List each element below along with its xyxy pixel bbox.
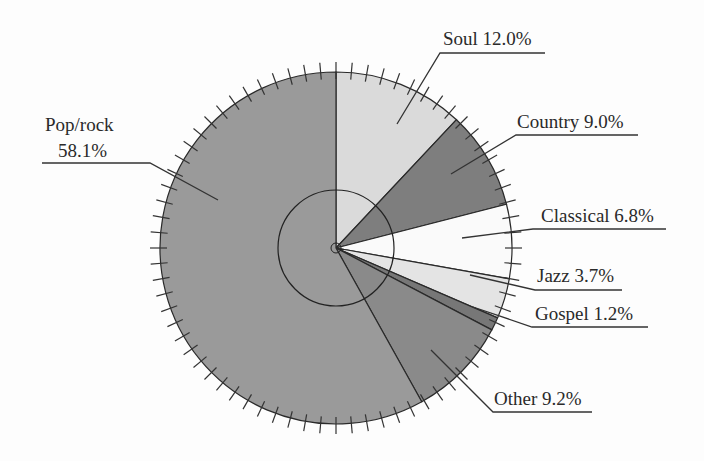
pie-chart: Soul 12.0% Country 9.0% Classical 6.8% J… xyxy=(0,0,704,461)
label-other: Other 9.2% xyxy=(494,388,582,409)
label-jazz: Jazz 3.7% xyxy=(537,265,614,286)
label-soul: Soul 12.0% xyxy=(443,28,532,49)
label-poprock-name: Pop/rock xyxy=(45,114,114,135)
label-country: Country 9.0% xyxy=(517,111,624,132)
label-classical: Classical 6.8% xyxy=(541,205,654,226)
label-gospel: Gospel 1.2% xyxy=(535,303,633,324)
label-poprock-value: 58.1% xyxy=(58,140,107,161)
